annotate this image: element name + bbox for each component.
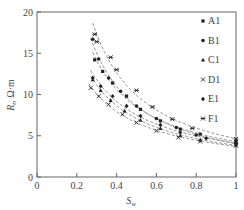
- legend-label: E1: [208, 93, 219, 104]
- asterisk-marker-icon: [201, 117, 206, 121]
- data-point-a1: [101, 70, 104, 73]
- circle-marker-icon: [201, 39, 205, 43]
- data-point-a1: [93, 58, 96, 61]
- plot-frame: [37, 12, 236, 177]
- data-point-a1: [111, 81, 114, 84]
- x-tick-label: 0.8: [190, 180, 203, 191]
- data-point-b1: [194, 133, 198, 137]
- x-tick-label: 1: [234, 180, 239, 191]
- data-point-d1: [135, 121, 139, 125]
- fit-line-c1: [91, 76, 236, 145]
- y-tick-label: 0: [28, 172, 33, 183]
- data-point-d1: [97, 94, 101, 98]
- legend-item-f1: F1: [201, 113, 219, 124]
- data-point-f1: [134, 88, 139, 92]
- data-point-b1: [119, 89, 123, 93]
- legend-item-a1: A1: [201, 15, 220, 26]
- data-point-e1: [111, 94, 115, 98]
- data-point-b1: [107, 76, 111, 80]
- data-point-e1: [178, 130, 182, 134]
- legend-item-e1: E1: [201, 93, 219, 104]
- data-point-f1: [190, 126, 195, 130]
- data-point-e1: [158, 123, 162, 127]
- chart: 05101520 00.20.40.60.81 A1B1C1D1E1F1 Sw …: [0, 0, 244, 210]
- x-tick-label: 0.2: [71, 180, 84, 191]
- triangle-marker-icon: [201, 58, 205, 62]
- x-axis-label: Sw: [126, 195, 136, 208]
- y-tick-label: 5: [28, 130, 33, 141]
- data-point-b1: [135, 104, 139, 108]
- y-tick-label: 20: [23, 7, 33, 18]
- data-point-e1: [204, 136, 208, 140]
- data-point-a1: [159, 119, 162, 122]
- data-point-f1: [150, 105, 155, 109]
- x-tick-label: 0: [35, 180, 40, 191]
- x-axis-ticks: 00.20.40.60.81: [35, 173, 239, 191]
- data-point-f1: [92, 32, 97, 36]
- data-point-b1: [175, 126, 179, 130]
- legend: A1B1C1D1E1F1: [201, 15, 221, 124]
- x-tick-label: 0.6: [150, 180, 163, 191]
- legend-label: C1: [208, 54, 220, 65]
- data-point-f1: [108, 55, 113, 59]
- legend-label: D1: [208, 74, 220, 85]
- legend-item-b1: B1: [201, 35, 219, 46]
- data-points: [89, 32, 239, 147]
- data-point-a1: [199, 133, 202, 136]
- diamond-marker-icon: [201, 97, 205, 101]
- y-tick-label: 10: [23, 89, 33, 100]
- legend-item-d1: D1: [201, 74, 220, 85]
- data-point-a1: [125, 95, 128, 98]
- legend-label: F1: [208, 113, 219, 124]
- legend-label: A1: [208, 15, 220, 26]
- data-point-c1: [109, 98, 113, 102]
- data-point-e1: [99, 84, 103, 88]
- data-point-a1: [139, 108, 142, 111]
- x-tick-label: 0.4: [110, 180, 123, 191]
- data-point-b1: [91, 37, 95, 41]
- y-axis-label: Rt, Ω·m: [5, 79, 18, 112]
- legend-item-c1: C1: [201, 54, 220, 65]
- square-marker-icon: [201, 19, 204, 22]
- data-point-f1: [114, 68, 119, 72]
- data-point-b1: [155, 117, 159, 121]
- legend-label: B1: [208, 35, 220, 46]
- data-point-f1: [94, 40, 99, 44]
- data-point-b1: [97, 57, 101, 61]
- data-point-f1: [170, 117, 175, 121]
- y-tick-label: 15: [23, 48, 33, 59]
- y-axis-ticks: 05101520: [23, 7, 41, 183]
- x-marker-icon: [201, 78, 205, 82]
